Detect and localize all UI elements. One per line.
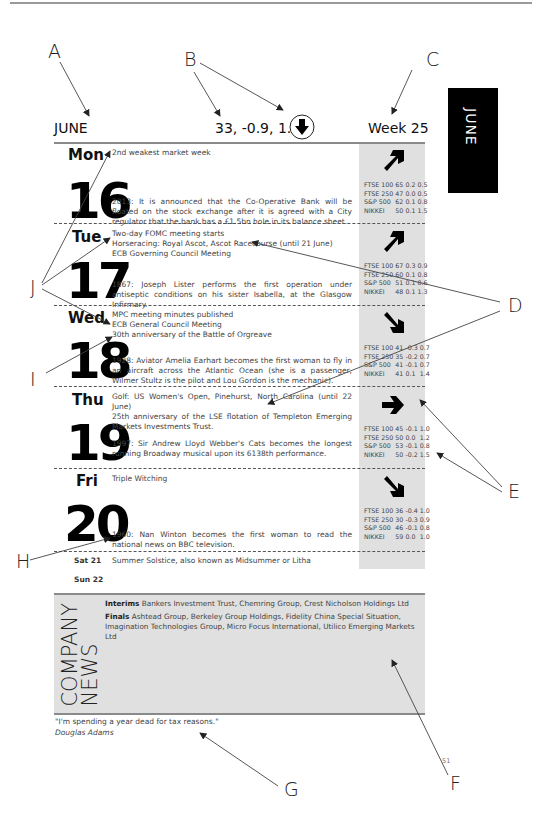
- callout-arrows: [0, 0, 542, 833]
